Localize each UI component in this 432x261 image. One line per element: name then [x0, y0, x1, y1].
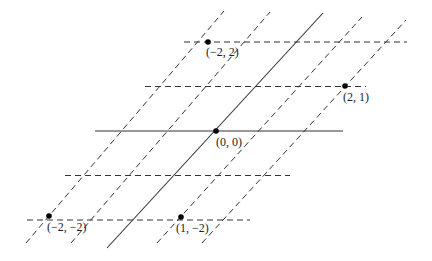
- lattice-diagram: (−2, 2)(2, 1)(0, 0)(−2, −2)(1, −2): [0, 0, 432, 261]
- lattice-point: [205, 39, 211, 45]
- point-label: (−2, −2): [47, 220, 87, 234]
- lattice-points: (−2, 2)(2, 1)(0, 0)(−2, −2)(1, −2): [46, 39, 369, 235]
- lattice-point: [178, 214, 184, 220]
- slanted-line-i-2: [26, 11, 224, 243]
- lattice-point: [213, 128, 219, 134]
- point-label: (0, 0): [216, 135, 242, 149]
- point-label: (−2, 2): [206, 45, 239, 59]
- point-label: (1, −2): [176, 221, 209, 235]
- slanted-line-i-1: [71, 12, 270, 243]
- slanted-line-i1: [157, 17, 362, 243]
- point-label: (2, 1): [343, 90, 369, 104]
- lattice-point: [342, 83, 348, 89]
- lattice-point: [46, 213, 52, 219]
